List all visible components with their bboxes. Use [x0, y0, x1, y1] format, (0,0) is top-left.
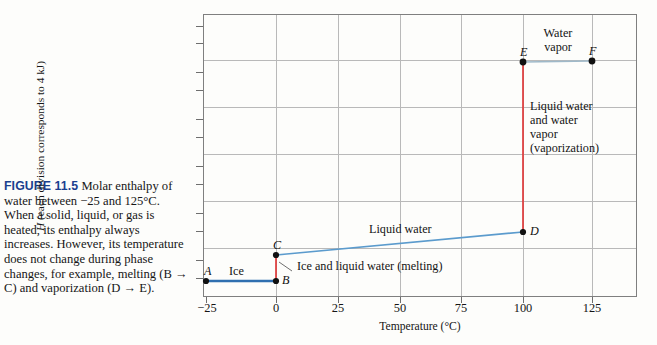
- point-label-B: B: [282, 273, 289, 288]
- leader-line-melting: [279, 262, 292, 271]
- annotation-vaporization-line3: vapor: [530, 127, 602, 141]
- annotation-liquid-water: Liquid water: [369, 222, 432, 236]
- annotation-water-vapor-line1: Water: [524, 26, 592, 40]
- segment-vapor-heating: [523, 61, 592, 62]
- data-point-D: [520, 229, 526, 235]
- annotation-vaporization-line4: (vaporization): [530, 141, 602, 155]
- data-point-B: [273, 278, 279, 284]
- annotation-vaporization-line1: Liquid water: [530, 99, 602, 113]
- annotation-vaporization-line2: and water: [530, 113, 602, 127]
- annotation-melting: Ice and liquid water (melting): [297, 259, 443, 273]
- chart-container: −25 0 25 50 75 100 125 Temperature (°C) …: [0, 0, 657, 345]
- point-label-A: A: [204, 264, 211, 279]
- point-label-C: C: [273, 238, 281, 253]
- annotation-water-vapor-line2: vapor: [524, 40, 592, 54]
- annotation-ice: Ice: [229, 264, 244, 278]
- point-label-D: D: [530, 224, 539, 239]
- annotation-vaporization: Liquid water and water vapor (vaporizati…: [530, 99, 602, 155]
- annotation-water-vapor: Water vapor: [524, 26, 592, 54]
- figure-root: FIGURE 11.5 Molar enthalpy of water betw…: [0, 0, 657, 345]
